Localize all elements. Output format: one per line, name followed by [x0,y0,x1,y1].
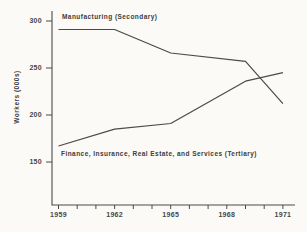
y-tick-label-250: 250 [22,64,42,72]
x-tick-label-1971: 1971 [268,211,298,219]
axes [52,11,295,205]
x-tick-label-1968: 1968 [212,211,242,219]
x-tick-label-1965: 1965 [156,211,186,219]
y-tick-label-300: 300 [22,17,42,25]
series-label-manufacturing-secondary: Manufacturing (Secondary) [62,13,157,20]
y-tick-label-150: 150 [22,158,42,166]
x-tick-label-1959: 1959 [44,211,74,219]
series-line-manufacturing [59,30,283,104]
series-line-tertiary [59,73,283,146]
series-label-finance-tertiary: Finance, Insurance, Real Estate, and Ser… [61,150,257,157]
y-tick-label-200: 200 [22,111,42,119]
plot-area [0,0,307,232]
line-chart-figure: Workers (000s) Manufacturing (Secondary)… [0,0,307,232]
y-axis-title: Workers (000s) [13,70,20,124]
x-tick-label-1962: 1962 [100,211,130,219]
